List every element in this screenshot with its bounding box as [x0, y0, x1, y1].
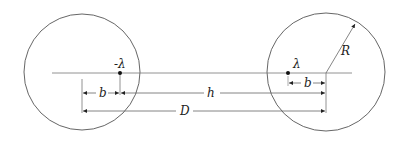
dim-D-label: D — [179, 104, 190, 118]
neg-charge-label: -λ — [114, 57, 126, 71]
radius-label: R — [340, 44, 350, 58]
dim-b-right-label: b — [304, 76, 312, 90]
dim-h-label: h — [207, 86, 215, 100]
right-conductor — [267, 13, 385, 131]
diagram-canvas: R -λ λ b h b D — [0, 0, 405, 142]
parallel-conductors-diagram: R -λ λ b h b D — [0, 0, 405, 142]
neg-charge-dot — [118, 71, 122, 75]
pos-charge-dot — [286, 71, 290, 75]
pos-charge-label: λ — [292, 57, 301, 71]
dim-b-left-label: b — [99, 86, 107, 100]
